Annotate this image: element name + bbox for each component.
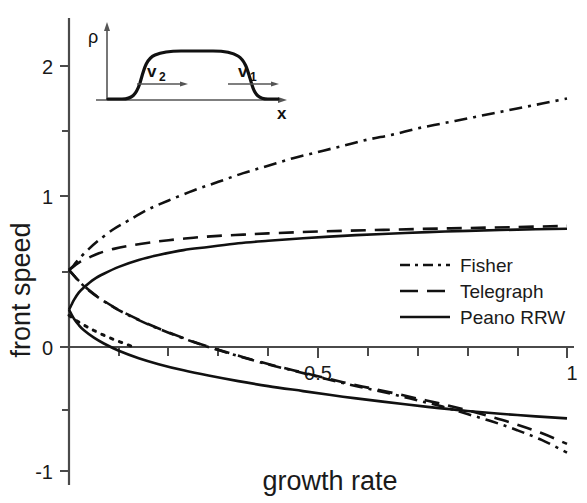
y-ticklabel-2: 2 xyxy=(42,56,53,78)
axes-group xyxy=(69,18,574,485)
x-axis-title: growth rate xyxy=(262,466,397,496)
y-ticklabel-minus1: -1 xyxy=(35,461,53,483)
inset-v1-label: v xyxy=(238,62,248,81)
legend-label-peano-rrw: Peano RRW xyxy=(460,307,565,328)
inset-y-arrowhead xyxy=(104,22,110,31)
inset-v1-arrowhead xyxy=(271,82,279,87)
y-ticklabel-1: 1 xyxy=(42,186,53,208)
figure-container: 2 1 0 -1 0.5 1 front speed growth rate xyxy=(0,0,587,503)
inset-x-arrowhead xyxy=(278,97,287,103)
y-axis-ticks xyxy=(60,66,69,471)
front-speed-chart: 2 1 0 -1 0.5 1 front speed growth rate xyxy=(0,0,587,503)
legend-item-peano-rrw[interactable]: Peano RRW xyxy=(400,307,565,328)
legend-label-telegraph: Telegraph xyxy=(460,281,543,302)
legend-label-fisher: Fisher xyxy=(460,255,513,276)
inset-v2-subscript: 2 xyxy=(159,70,166,84)
inset-diagram: v 2 v 1 ρ x xyxy=(88,22,287,123)
y-axis-title: front speed xyxy=(6,222,36,357)
inset-rho-label: ρ xyxy=(88,27,98,47)
y-ticklabel-0: 0 xyxy=(42,337,53,359)
legend-item-fisher[interactable]: Fisher xyxy=(400,255,513,276)
inset-x-label: x xyxy=(277,104,287,123)
legend: Fisher Telegraph Peano RRW xyxy=(400,255,565,328)
legend-item-telegraph[interactable]: Telegraph xyxy=(400,281,543,302)
x-axis-ticks xyxy=(119,347,567,358)
inset-v2-arrowhead xyxy=(180,82,188,87)
inset-v2-label: v xyxy=(147,62,157,81)
inset-v1-subscript: 1 xyxy=(250,70,257,84)
x-ticklabel-one: 1 xyxy=(566,362,577,384)
